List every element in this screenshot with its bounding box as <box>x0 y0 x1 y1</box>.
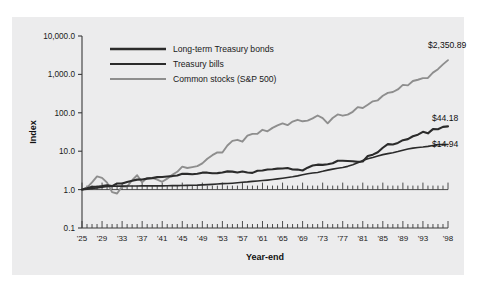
x-tick-label: '25 <box>77 234 88 243</box>
legend-label: Treasury bills <box>173 59 224 69</box>
chart-svg: 10,000.01,000.0100.010.01.00.1'25'29'33'… <box>0 0 482 292</box>
y-tick-label: 10.0 <box>59 147 75 156</box>
y-tick-label: 10,000.0 <box>43 32 75 41</box>
x-tick-label: '65 <box>277 234 288 243</box>
x-tick-label: '81 <box>358 234 369 243</box>
annotation-bonds: $44.18 <box>432 113 459 123</box>
x-tick-label: '41 <box>157 234 168 243</box>
x-tick-label: '98 <box>443 234 454 243</box>
y-tick-label: 1,000.0 <box>48 70 76 79</box>
figure: 10,000.01,000.0100.010.01.00.1'25'29'33'… <box>0 0 482 292</box>
series-line <box>82 144 448 189</box>
x-tick-label: '73 <box>317 234 328 243</box>
x-axis-title: Year-end <box>246 252 284 262</box>
y-tick-label: 1.0 <box>64 186 76 195</box>
x-tick-label: '69 <box>297 234 308 243</box>
legend-label: Common stocks (S&P 500) <box>173 74 277 84</box>
x-tick-label: '37 <box>137 234 148 243</box>
x-tick-label: '89 <box>398 234 409 243</box>
x-tick-label: '85 <box>378 234 389 243</box>
annotation-bills: $14.94 <box>432 139 459 149</box>
y-tick-label: 0.1 <box>64 224 76 233</box>
x-tick-label: '61 <box>257 234 268 243</box>
y-tick-label: 100.0 <box>55 109 76 118</box>
x-tick-label: '33 <box>117 234 128 243</box>
x-tick-label: '29 <box>97 234 108 243</box>
x-tick-label: '93 <box>418 234 429 243</box>
x-tick-label: '77 <box>337 234 348 243</box>
annotation-stocks: $2,350.89 <box>428 40 466 50</box>
legend-label: Long-term Treasury bonds <box>173 44 274 54</box>
x-tick-label: '53 <box>217 234 228 243</box>
y-axis-title: Index <box>28 120 38 144</box>
x-tick-label: '45 <box>177 234 188 243</box>
x-tick-label: '57 <box>237 234 248 243</box>
x-tick-label: '49 <box>197 234 208 243</box>
